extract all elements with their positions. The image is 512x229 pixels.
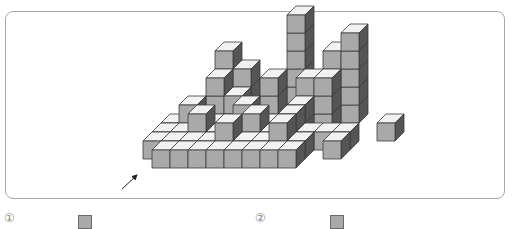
option-2-square[interactable] <box>330 215 344 229</box>
view-arrow-icon <box>122 175 137 189</box>
stacked-cubes <box>143 6 404 168</box>
option-2-number[interactable]: ② <box>255 212 266 224</box>
option-1-number[interactable]: ① <box>4 212 15 224</box>
option-1-square[interactable] <box>78 215 92 229</box>
block-structure-figure <box>0 0 512 229</box>
cube <box>377 114 404 141</box>
